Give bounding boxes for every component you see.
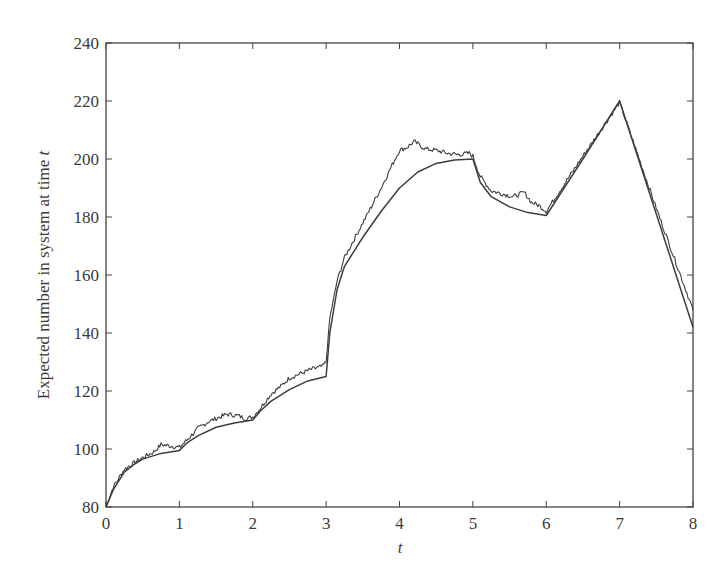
plot-area xyxy=(106,43,693,507)
y-tick-label: 200 xyxy=(74,150,100,169)
y-axis-label-text: Expected number in system at time xyxy=(34,156,53,400)
y-tick-label: 120 xyxy=(74,382,100,401)
x-tick-label: 1 xyxy=(175,514,184,533)
x-tick-label: 6 xyxy=(542,514,551,533)
x-tick-label: 4 xyxy=(395,514,404,533)
series-lines xyxy=(106,100,693,507)
y-tick-label: 220 xyxy=(74,92,100,111)
y-axis-label-var: t xyxy=(34,150,53,156)
x-tick-label: 8 xyxy=(689,514,698,533)
x-tick-label: 7 xyxy=(615,514,624,533)
y-axis-label: Expected number in system at time t xyxy=(34,150,53,400)
x-tick-label: 3 xyxy=(322,514,331,533)
x-tick-label: 5 xyxy=(469,514,478,533)
y-tick-label: 160 xyxy=(74,266,100,285)
simulation-curve xyxy=(106,100,693,507)
y-tick-label: 240 xyxy=(74,34,100,53)
y-tick-label: 140 xyxy=(74,324,100,343)
y-tick-label: 100 xyxy=(74,440,100,459)
chart: 01234567880100120140160180200220240 t Ex… xyxy=(0,0,727,585)
x-axis-label: t xyxy=(398,538,404,557)
x-tick-label: 2 xyxy=(249,514,258,533)
x-tick-label: 0 xyxy=(102,514,111,533)
tick-labels: 01234567880100120140160180200220240 xyxy=(74,34,698,533)
smooth-curve xyxy=(106,101,693,507)
axis-ticks xyxy=(106,43,693,507)
y-tick-label: 80 xyxy=(82,498,99,517)
y-tick-label: 180 xyxy=(74,208,100,227)
